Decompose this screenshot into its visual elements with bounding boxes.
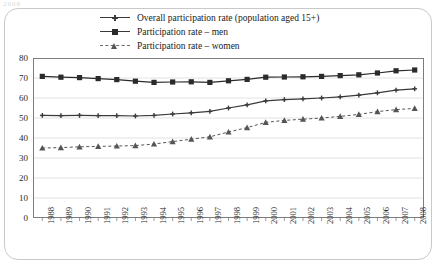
- plus-marker: [152, 113, 157, 118]
- plus-marker: [319, 96, 324, 101]
- plus-marker: [189, 110, 194, 115]
- y-axis-tick-label: 60: [8, 94, 28, 103]
- square-marker: [207, 80, 212, 85]
- square-marker: [40, 74, 45, 79]
- square-marker: [96, 76, 101, 81]
- square-marker: [245, 77, 250, 82]
- x-axis-tick-label: 1999: [251, 207, 261, 224]
- x-axis-tick-label: 2005: [362, 207, 372, 224]
- x-axis-tick-label: 1996: [195, 207, 205, 224]
- y-axis-tick-label: 40: [8, 134, 28, 143]
- triangle-marker: [151, 141, 157, 147]
- x-axis-tick-label: 1993: [139, 207, 149, 224]
- y-axis-tick-label: 10: [8, 194, 28, 203]
- square-marker: [412, 67, 417, 72]
- square-marker: [319, 74, 324, 79]
- triangle-marker: [95, 143, 101, 149]
- plus-marker: [412, 86, 417, 91]
- square-marker: [375, 70, 380, 75]
- x-axis-tick-label: 2000: [269, 207, 279, 224]
- square-marker: [282, 74, 287, 79]
- triangle-marker: [58, 145, 64, 151]
- plus-marker: [96, 113, 101, 118]
- x-axis-tick-label: 1997: [213, 207, 223, 224]
- x-axis-tick-label: 2001: [288, 207, 298, 224]
- x-axis-tick-label: 1991: [102, 207, 112, 224]
- plus-marker: [170, 112, 175, 117]
- plus-marker: [375, 90, 380, 95]
- square-marker: [133, 79, 138, 84]
- plus-marker: [59, 113, 64, 118]
- x-axis-tick-label: 2002: [306, 207, 316, 224]
- square-marker: [263, 75, 268, 80]
- square-marker: [58, 75, 63, 80]
- x-axis-tick-label: 2004: [344, 207, 354, 224]
- y-axis-tick-label: 20: [8, 174, 28, 183]
- triangle-marker: [207, 134, 213, 140]
- x-axis-tick-label: 1989: [64, 207, 74, 224]
- x-axis-tick-label: 1992: [120, 207, 130, 224]
- plus-marker: [356, 93, 361, 98]
- square-marker: [300, 74, 305, 79]
- square-marker: [226, 78, 231, 83]
- triangle-marker: [374, 109, 380, 115]
- chart-svg: [0, 0, 437, 266]
- triangle-marker: [244, 125, 250, 131]
- plus-marker: [207, 109, 212, 114]
- plus-marker: [40, 113, 45, 118]
- square-marker: [114, 77, 119, 82]
- triangle-marker: [188, 136, 194, 142]
- x-axis-tick-label: 1995: [176, 207, 186, 224]
- square-marker: [356, 72, 361, 77]
- square-marker: [338, 73, 343, 78]
- y-axis-tick-label: 80: [8, 54, 28, 63]
- x-axis-tick-label: 2003: [325, 207, 335, 224]
- x-axis-tick-label: 1988: [46, 207, 56, 224]
- x-axis-tick-label: 2006: [381, 207, 391, 224]
- plus-marker: [77, 113, 82, 118]
- x-axis-tick-label: 1994: [158, 207, 168, 224]
- x-axis-tick-label: 1990: [83, 207, 93, 224]
- triangle-marker: [412, 105, 418, 111]
- plus-marker: [394, 88, 399, 93]
- plot-region: 0102030405060708019881989199019911992199…: [0, 0, 437, 266]
- square-marker: [151, 80, 156, 85]
- plus-marker: [114, 113, 119, 118]
- square-marker: [77, 75, 82, 80]
- y-axis-tick-label: 70: [8, 74, 28, 83]
- x-axis-tick-label: 2008: [418, 207, 428, 224]
- plus-marker: [226, 106, 231, 111]
- y-axis-tick-label: 50: [8, 114, 28, 123]
- y-axis-tick-label: 30: [8, 154, 28, 163]
- x-axis-tick-label: 2007: [400, 207, 410, 224]
- x-axis-tick-label: 1998: [232, 207, 242, 224]
- plus-marker: [245, 102, 250, 107]
- square-marker: [189, 79, 194, 84]
- square-marker: [170, 79, 175, 84]
- plus-marker: [263, 98, 268, 103]
- square-marker: [393, 68, 398, 73]
- y-axis-tick-label: 0: [8, 214, 28, 223]
- plus-marker: [301, 96, 306, 101]
